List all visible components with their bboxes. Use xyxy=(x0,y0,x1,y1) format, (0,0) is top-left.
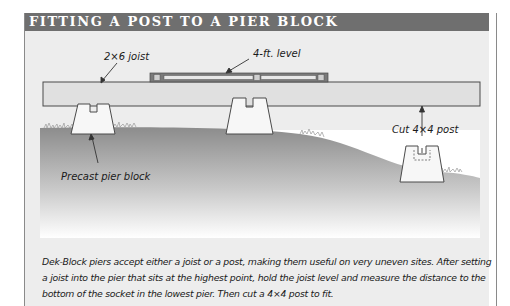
figure-caption: Dek-Block piers accept either a joist or… xyxy=(42,254,492,302)
level-tool xyxy=(150,73,328,82)
label-joist: 2×6 joist xyxy=(104,51,150,62)
label-level: 4-ft. level xyxy=(253,48,301,59)
label-cut-post: Cut 4×4 post xyxy=(392,124,459,135)
pier-block-left xyxy=(71,104,115,134)
label-pier-block: Precast pier block xyxy=(61,171,152,182)
